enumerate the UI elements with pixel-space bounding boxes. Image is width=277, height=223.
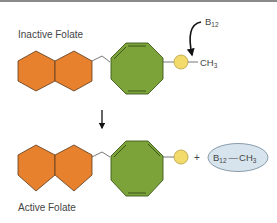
plus-sign: + <box>194 152 200 163</box>
methyl-b12-product: B12—CH3 <box>208 144 268 172</box>
methyl-group-label: CH3 <box>200 57 218 69</box>
glutamate-circle <box>174 150 188 164</box>
active-folate-molecule <box>18 141 188 196</box>
inactive-folate-molecule: CH3 <box>18 43 218 94</box>
linker-bond <box>92 56 110 62</box>
active-folate-label: Active Folate <box>18 202 76 213</box>
linker-bond <box>92 152 110 157</box>
pteridine-ring-2 <box>55 51 92 91</box>
b12-curved-arrow <box>190 22 201 55</box>
pteridine-ring-1 <box>18 145 55 191</box>
inactive-folate-label: Inactive Folate <box>18 29 83 40</box>
benzoate-ring <box>111 141 163 196</box>
benzoate-ring <box>111 43 163 94</box>
glutamate-circle <box>174 55 188 69</box>
pteridine-ring-2 <box>55 145 92 191</box>
pteridine-ring-1 <box>18 51 55 91</box>
folate-activation-diagram: Inactive Folate CH3 B12 + B12—CH3 Active… <box>0 0 277 223</box>
b12-label: B12 <box>205 16 219 28</box>
